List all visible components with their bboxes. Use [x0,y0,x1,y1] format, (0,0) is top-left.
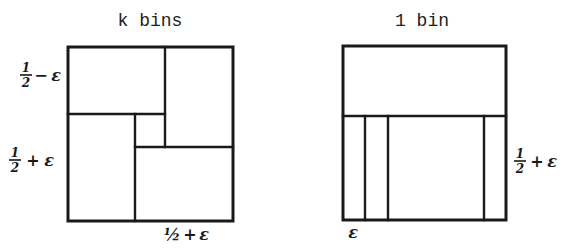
svg-text:+: + [530,152,543,171]
svg-text:2: 2 [10,161,19,175]
svg-text:ε: ε [51,66,61,85]
outer-bin-left [68,47,233,221]
svg-text:1: 1 [11,146,19,160]
svg-text:ε: ε [44,151,54,170]
svg-text:ε: ε [547,152,557,171]
svg-text:ε: ε [199,225,209,244]
svg-text:1: 1 [516,147,524,161]
svg-text:2: 2 [515,162,524,176]
svg-text:2: 2 [21,76,30,90]
label-half-plus-epsilon-left: 1 2 + ε [9,146,54,175]
svg-text:1: 1 [22,61,30,75]
svg-text:+: + [26,151,39,170]
right-panel-title: 1 bin [395,11,449,31]
left-panel-title: k bins [118,11,183,31]
outer-bin-right [343,46,506,220]
label-bottom-half-plus-epsilon: ½ + ε [164,225,209,244]
label-half-minus-epsilon: 1 2 − ε [20,61,61,90]
label-half-plus-epsilon-right: 1 2 + ε [514,147,557,176]
svg-text:½: ½ [164,225,181,244]
right-panel-1-bin: 1 bin 1 2 + ε ε [343,11,557,242]
svg-text:ε: ε [348,223,358,242]
label-epsilon-bottom: ε [348,223,358,242]
svg-text:+: + [183,225,196,244]
svg-text:−: − [34,66,47,85]
bin-packing-diagram: k bins 1 2 − ε 1 2 + ε ½ + ε [0,0,573,250]
left-panel-k-bins: k bins 1 2 − ε 1 2 + ε ½ + ε [9,11,233,244]
